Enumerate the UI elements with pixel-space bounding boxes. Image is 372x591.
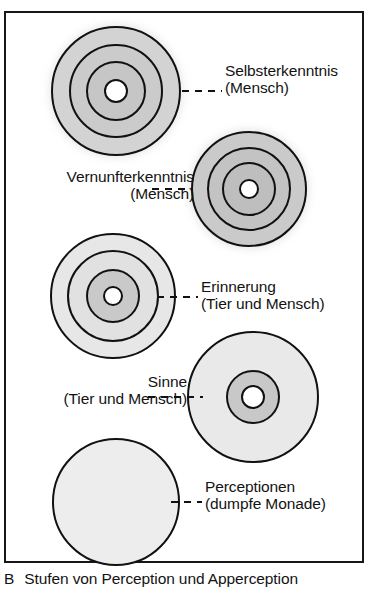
ring-group-perceptionen	[53, 439, 179, 565]
figure-caption-text: Stufen von Perception und Apperception	[24, 570, 298, 587]
ring-group-erinnerung	[51, 234, 175, 358]
ring-group-vernunfterkenntnis	[190, 130, 308, 248]
figure-caption-key: B	[4, 570, 14, 587]
ring-group-sinne	[188, 332, 318, 462]
label-selbsterkenntnis-line1: Selbsterkenntnis	[225, 62, 338, 79]
label-erinnerung-line2: (Tier und Mensch)	[201, 296, 325, 313]
label-erinnerung: Erinnerung (Tier und Mensch)	[201, 279, 325, 312]
label-sinne: Sinne (Tier und Mensch)	[64, 374, 188, 407]
label-sinne-line2: (Tier und Mensch)	[64, 391, 188, 408]
label-selbsterkenntnis-line2: (Mensch)	[225, 80, 338, 97]
label-vernunfterkenntnis: Vernunfterkenntnis (Mensch)	[67, 169, 194, 202]
figure-caption: BStufen von Perception und Apperception	[4, 570, 372, 588]
label-perceptionen-line1: Perceptionen	[205, 478, 295, 495]
label-perceptionen: Perceptionen (dumpfe Monade)	[205, 479, 326, 512]
label-selbsterkenntnis: Selbsterkenntnis (Mensch)	[225, 63, 338, 96]
label-vernunfterkenntnis-line1: Vernunfterkenntnis	[67, 168, 194, 185]
label-vernunfterkenntnis-line2: (Mensch)	[67, 186, 194, 203]
figure-root: Selbsterkenntnis (Mensch) Vernunfterkenn…	[0, 0, 372, 591]
label-sinne-line1: Sinne	[148, 373, 187, 390]
ring-group-selbsterkenntnis	[50, 25, 182, 157]
label-perceptionen-line2: (dumpfe Monade)	[205, 496, 326, 513]
label-erinnerung-line1: Erinnerung	[201, 278, 276, 295]
